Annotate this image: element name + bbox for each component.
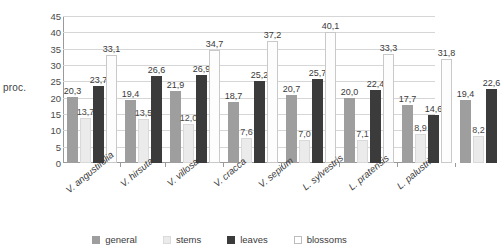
y-axis-tick: 35 (41, 43, 61, 54)
bar-leaves[interactable]: 22,4 (370, 90, 381, 163)
legend-item-stems[interactable]: stems (163, 234, 201, 245)
bar-value-label: 17,7 (399, 95, 417, 104)
bar-general[interactable]: 19,4 (460, 100, 471, 163)
bar-blossoms[interactable]: 31,8 (441, 59, 452, 163)
bar-fill (299, 140, 310, 163)
y-axis-tick: 10 (41, 125, 61, 136)
bar-fill (228, 102, 239, 163)
bar-general[interactable]: 20,7 (286, 95, 297, 163)
y-axis-title: proc. (3, 82, 26, 93)
bar-value-label: 25,2 (251, 71, 269, 80)
x-axis-label-cell: L. sylvestris (296, 166, 343, 221)
bar-fill (486, 89, 497, 163)
bar-leaves[interactable]: 26,9 (196, 75, 207, 163)
bar-fill (93, 86, 104, 163)
bar-blossoms[interactable]: 40,1 (325, 32, 336, 163)
bar-leaves[interactable]: 25,2 (254, 81, 265, 163)
legend-swatch-icon (294, 236, 302, 244)
y-axis-tick-labels: 051015202530354045 (39, 0, 61, 251)
y-axis-tick: 5 (41, 141, 61, 152)
bar-value-label: 7,6 (240, 128, 253, 137)
bar-fill (286, 95, 297, 163)
bar-group: 20,77,025,740,1 (282, 16, 340, 163)
bar-value-label: 33,3 (380, 44, 398, 53)
bar-value-label: 31,8 (438, 49, 456, 58)
bar-fill (473, 136, 484, 163)
x-axis-label-cell: V. angustifolia (63, 166, 110, 221)
bar-fill (344, 98, 355, 163)
legend-item-leaves[interactable]: leaves (227, 234, 267, 245)
bar-value-label: 19,4 (457, 90, 475, 99)
x-axis-label-cell: L. pratensis (342, 166, 389, 221)
bar-group: 20,07,122,433,3 (340, 16, 398, 163)
y-axis-tick: 25 (41, 76, 61, 87)
bar-leaves[interactable]: 26,6 (151, 76, 162, 163)
legend-swatch-icon (227, 236, 235, 244)
bar-value-label: 8,9 (414, 124, 427, 133)
bar-value-label: 8,2 (472, 126, 485, 135)
x-axis-label-cell: L. palustris (389, 166, 436, 221)
bar-general[interactable]: 21,9 (170, 91, 181, 163)
y-axis-tick: 15 (41, 109, 61, 120)
bar-leaves[interactable]: 23,7 (93, 86, 104, 163)
bar-value-label: 26,6 (148, 66, 166, 75)
bar-general[interactable]: 17,7 (402, 105, 413, 163)
x-axis-label-cell: V. cracca (203, 166, 250, 221)
y-axis-tick: 45 (41, 11, 61, 22)
x-axis-label-cell: V. villosa (156, 166, 203, 221)
bar-fill (370, 90, 381, 163)
bar-fill (312, 79, 323, 163)
legend-item-blossoms[interactable]: blossoms (294, 234, 347, 245)
bar-fill (383, 54, 394, 163)
bar-value-label: 33,1 (103, 45, 121, 54)
bar-fill (254, 81, 265, 163)
bar-fill (402, 105, 413, 163)
bar-value-label: 19,4 (122, 90, 140, 99)
bar-value-label: 21,9 (167, 81, 185, 90)
legend-label: blossoms (307, 234, 347, 245)
bar-fill (325, 32, 336, 163)
bar-fill (80, 118, 91, 163)
bar-value-label: 7,1 (356, 130, 369, 139)
legend-label: general (105, 234, 137, 245)
bar-stems[interactable]: 8,2 (473, 136, 484, 163)
bar-value-label: 26,9 (193, 65, 211, 74)
y-axis-tick: 30 (41, 60, 61, 71)
chart-legend: generalstemsleavesblossoms (0, 234, 439, 245)
bar-value-label: 34,7 (206, 40, 224, 49)
legend-swatch-icon (92, 236, 100, 244)
bar-value-label: 20,0 (341, 88, 359, 97)
bar-fill (460, 100, 471, 163)
y-axis-tick: 20 (41, 92, 61, 103)
x-axis-label-cell: V. hirsuta (110, 166, 157, 221)
bar-blossoms[interactable]: 34,7 (209, 50, 220, 163)
legend-label: leaves (240, 234, 267, 245)
bar-value-label: 7,0 (298, 130, 311, 139)
y-axis-tick: 40 (41, 27, 61, 38)
bar-stems[interactable]: 13,7 (80, 118, 91, 163)
bar-value-label: 22,6 (483, 79, 501, 88)
bar-blossoms[interactable]: 33,1 (106, 55, 117, 163)
bar-value-label: 20,7 (283, 85, 301, 94)
bar-leaves[interactable]: 22,6 (486, 89, 497, 163)
bar-groups: 20,313,723,733,119,413,526,621,912,026,9… (63, 16, 435, 163)
bar-leaves[interactable]: 25,7 (312, 79, 323, 163)
legend-item-general[interactable]: general (92, 234, 137, 245)
x-axis-tick (455, 163, 456, 167)
bar-blossoms[interactable]: 37,2 (267, 41, 278, 163)
bar-value-label: 12,0 (180, 114, 198, 123)
bar-fill (357, 140, 368, 163)
legend-label: stems (176, 234, 201, 245)
bar-general[interactable]: 18,7 (228, 102, 239, 163)
bar-group: 18,77,625,237,2 (224, 16, 282, 163)
bar-fill (209, 50, 220, 163)
bar-value-label: 37,2 (264, 31, 282, 40)
bar-stems[interactable]: 7,0 (299, 140, 310, 163)
bar-blossoms[interactable]: 33,3 (383, 54, 394, 163)
bar-value-label: 13,5 (135, 109, 153, 118)
bar-general[interactable]: 20,0 (344, 98, 355, 163)
plot-area: 20,313,723,733,119,413,526,621,912,026,9… (63, 16, 435, 163)
bar-group: 19,413,526,6 (121, 16, 166, 163)
bar-stems[interactable]: 7,1 (357, 140, 368, 163)
